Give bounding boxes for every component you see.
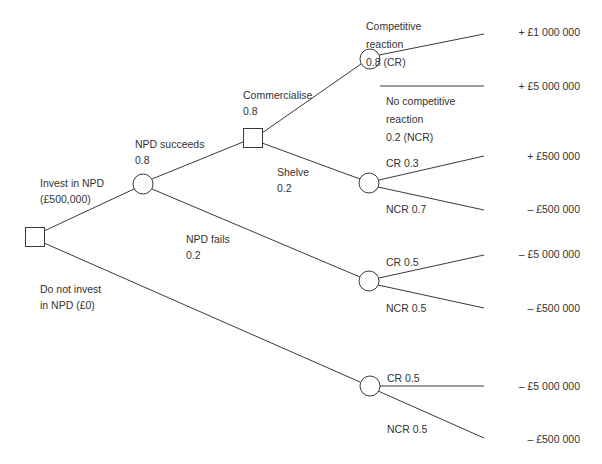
npd-chance-node [133,174,153,194]
noinvest-chance-node [360,376,380,396]
root-decision-node [26,228,45,247]
label-commercialise-text: Commercialise [243,87,312,103]
payoff-2: + £5 000 000 [460,79,580,93]
label-invest: Invest in NPD (£500,000) [40,175,104,207]
label-do-not-invest: Do not invest in NPD (£0) [40,281,101,313]
label-noinvest-cr: CR 0.5 [387,370,420,386]
decision-tree-graphic [0,0,602,464]
label-shelve-cr: CR 0.3 [386,155,419,171]
payoff-1: + £1 000 000 [460,25,580,39]
label-comm-cr-prob: 0.8 (CR) [366,53,421,71]
label-shelve-text: Shelve [277,164,309,180]
label-comm-cr: Competitive reaction 0.8 (CR) [366,17,421,71]
label-shelve-ncr: NCR 0.7 [386,201,426,217]
label-npd-succeeds-text: NPD succeeds [135,136,204,152]
label-comm-cr-line2: reaction [366,35,421,53]
payoff-8: – £500 000 [460,432,580,446]
label-fail-ncr: NCR 0.5 [386,300,426,316]
label-do-not-invest-line1: Do not invest [40,281,101,297]
payoff-6: – £500 000 [460,301,580,315]
fail-chance-node [359,271,379,291]
branch-npd-fails [152,189,360,277]
label-npd-succeeds-prob: 0.8 [135,152,204,168]
label-npd-fails: NPD fails 0.2 [186,231,230,263]
payoff-4: – £500 000 [460,202,580,216]
label-noinvest-ncr: NCR 0.5 [387,421,427,437]
shelve-chance-node [359,173,379,193]
label-commercialise-prob: 0.8 [243,103,312,119]
label-commercialise: Commercialise 0.8 [243,87,312,119]
label-comm-ncr-prob: 0.2 (NCR) [386,128,455,146]
label-npd-fails-text: NPD fails [186,231,230,247]
label-npd-succeeds: NPD succeeds 0.8 [135,136,204,168]
label-do-not-invest-line2: in NPD (£0) [40,297,101,313]
label-comm-cr-line1: Competitive [366,17,421,35]
label-invest-line1: Invest in NPD [40,175,104,191]
payoff-3: + £500 000 [460,149,580,163]
label-fail-cr: CR 0.5 [386,254,419,270]
label-shelve-prob: 0.2 [277,180,309,196]
label-comm-ncr-line1: No competitive [386,92,455,110]
label-comm-ncr-line2: reaction [386,110,455,128]
payoff-5: – £5 000 000 [460,247,580,261]
label-shelve: Shelve 0.2 [277,164,309,196]
label-invest-cost: (£500,000) [40,191,104,207]
label-npd-fails-prob: 0.2 [186,247,230,263]
payoff-7: – £5 000 000 [460,379,580,393]
label-comm-ncr: No competitive reaction 0.2 (NCR) [386,92,455,146]
commercialise-decision-node [244,129,263,148]
